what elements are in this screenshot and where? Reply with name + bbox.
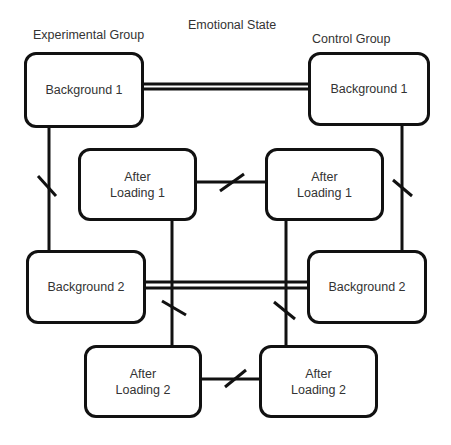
node-label-line1: After <box>110 169 165 185</box>
node-background-2-experimental: Background 2 <box>26 250 146 324</box>
node-label-line1: After <box>297 169 352 185</box>
node-label: Background 1 <box>45 82 122 98</box>
node-background-1-experimental: Background 1 <box>24 52 144 128</box>
node-label-line1: After <box>116 366 171 382</box>
control-group-header: Control Group <box>312 32 391 46</box>
node-background-1-control: Background 1 <box>308 52 430 126</box>
node-after-loading-1-experimental: AfterLoading 1 <box>78 148 197 221</box>
node-after-loading-2-control: AfterLoading 2 <box>259 345 378 418</box>
emotional-state-header: Emotional State <box>188 18 276 32</box>
node-label-line2: Loading 2 <box>291 382 346 398</box>
node-label: Background 2 <box>328 279 405 295</box>
edge-slash-mark <box>162 301 186 315</box>
node-label: Background 2 <box>47 279 124 295</box>
node-label-line2: Loading 1 <box>110 185 165 201</box>
node-after-loading-1-control: AfterLoading 1 <box>265 148 384 221</box>
node-label-line1: After <box>291 366 346 382</box>
node-label-line2: Loading 1 <box>297 185 352 201</box>
node-after-loading-2-experimental: AfterLoading 2 <box>84 345 202 418</box>
edge-slash-mark <box>38 176 56 196</box>
node-label-line2: Loading 2 <box>116 382 171 398</box>
node-label: Background 1 <box>330 81 407 97</box>
experimental-group-header: Experimental Group <box>33 28 144 42</box>
node-background-2-control: Background 2 <box>307 250 427 324</box>
